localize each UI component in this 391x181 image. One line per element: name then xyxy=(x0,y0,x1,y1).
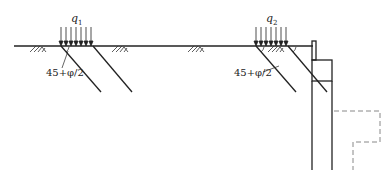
surcharge-q1-arrows xyxy=(59,27,93,46)
load-label-q1: q1 xyxy=(71,12,83,27)
diagram-canvas: q1 q2 45+φ/2 45+φ/2 xyxy=(0,0,391,181)
surcharge-q2-arrows xyxy=(254,27,288,46)
diagram-svg xyxy=(0,0,391,181)
angle-label-1: 45+φ/2 xyxy=(46,67,84,78)
dashed-excavation-outline xyxy=(334,111,380,170)
retaining-wall xyxy=(312,41,332,170)
angle-label-2: 45+φ/2 xyxy=(234,67,272,78)
load-label-q2: q2 xyxy=(266,12,278,27)
